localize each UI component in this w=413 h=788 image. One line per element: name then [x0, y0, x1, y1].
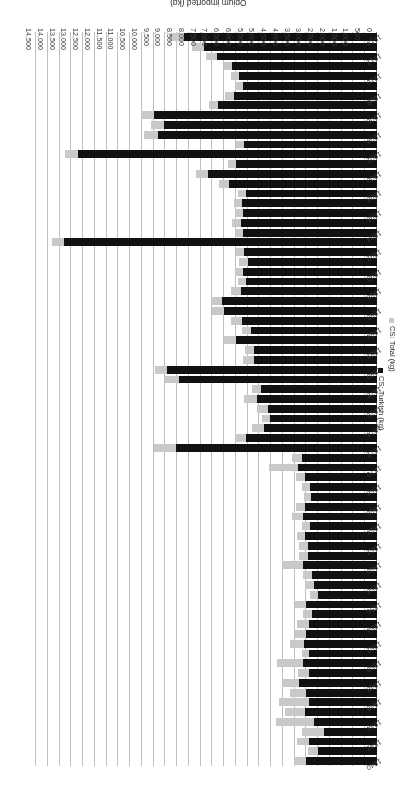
bar-row — [36, 532, 377, 540]
bar-turkish[interactable] — [261, 385, 377, 393]
bar-row — [36, 366, 377, 374]
bar-turkish[interactable] — [236, 160, 377, 168]
bar-turkish[interactable] — [208, 170, 377, 178]
bar-turkish[interactable] — [243, 209, 377, 217]
year-tick-label: 1856 — [379, 600, 384, 608]
bar-turkish[interactable] — [154, 111, 377, 119]
year-tick-label: 1900 — [379, 170, 384, 178]
bar-turkish[interactable] — [244, 141, 377, 149]
bar-turkish[interactable] — [241, 219, 377, 227]
value-tick-label: 1,500 — [330, 28, 339, 46]
bar-row — [36, 180, 377, 188]
value-tick-label: 8,000 — [177, 28, 186, 46]
bar-turkish[interactable] — [232, 62, 377, 70]
year-tick-label: 1846 — [379, 698, 384, 706]
year-tick-label: 1902 — [379, 150, 384, 158]
year-tick-label: 1898 — [379, 189, 384, 197]
year-tick-label: 1844 — [379, 718, 384, 726]
bar-turkish[interactable] — [78, 150, 377, 158]
bar-turkish[interactable] — [64, 239, 377, 247]
year-tick-label: 1864 — [379, 522, 384, 530]
bar-turkish[interactable] — [218, 102, 377, 110]
bar-row — [36, 287, 377, 295]
bar-row — [36, 278, 377, 286]
bar-turkish[interactable] — [242, 317, 377, 325]
bar-row — [36, 376, 377, 384]
year-tick-label: 1850 — [379, 659, 384, 667]
bar-turkish[interactable] — [224, 307, 377, 315]
year-tick-label: 1914 — [379, 33, 384, 41]
bar-turkish[interactable] — [243, 82, 377, 90]
value-tick-label: 11,500 — [95, 28, 104, 49]
bar-row — [36, 53, 377, 61]
bar-turkish[interactable] — [270, 415, 377, 423]
bar-turkish[interactable] — [241, 287, 377, 295]
value-tick-label: 14,000 — [36, 28, 45, 50]
bar-row — [36, 591, 377, 599]
value-tick-label: 3,000 — [294, 28, 303, 46]
bar-turkish[interactable] — [243, 268, 377, 276]
bar-turkish[interactable] — [244, 248, 377, 256]
legend-item-total[interactable]: CS: Total (kg) — [388, 318, 397, 372]
value-tick-label: 5,500 — [236, 28, 245, 46]
bar-row — [36, 385, 377, 393]
bar-turkish[interactable] — [248, 258, 377, 266]
bar-row — [36, 336, 377, 344]
bar-turkish[interactable] — [254, 356, 377, 364]
bar-turkish[interactable] — [264, 424, 377, 432]
value-tick-label: 4,500 — [259, 28, 268, 46]
bar-turkish[interactable] — [246, 278, 377, 286]
bar-row — [36, 640, 377, 648]
bar-turkish[interactable] — [239, 72, 377, 80]
bar-row — [36, 327, 377, 335]
bar-turkish[interactable] — [268, 405, 377, 413]
legend-item-turkish[interactable]: CS: Turkish (kg) — [377, 368, 386, 430]
year-tick-label: 1860 — [379, 561, 384, 569]
value-tick-label: 2,500 — [306, 28, 315, 46]
bar-turkish[interactable] — [179, 376, 377, 384]
bar-turkish[interactable] — [164, 121, 377, 129]
bar-row — [36, 92, 377, 100]
bar-turkish[interactable] — [167, 366, 377, 374]
bar-turkish[interactable] — [257, 395, 377, 403]
bar-row — [36, 170, 377, 178]
legend-swatch-total — [390, 318, 395, 323]
value-tick-label: 5,000 — [247, 28, 256, 46]
bar-row — [36, 493, 377, 501]
bar-row — [36, 434, 377, 442]
bar-turkish[interactable] — [158, 131, 377, 139]
bar-row — [36, 346, 377, 354]
bar-row — [36, 650, 377, 658]
bar-row — [36, 248, 377, 256]
bar-turkish[interactable] — [234, 92, 377, 100]
value-tick-label: 12,500 — [71, 28, 80, 50]
bar-turkish[interactable] — [243, 229, 377, 237]
bar-turkish[interactable] — [251, 327, 377, 335]
value-tick-label: 500 — [353, 28, 362, 40]
value-axis-title: Opium imported (kg) — [170, 0, 246, 8]
year-tick-label: 1896 — [379, 209, 384, 217]
bar-row — [36, 82, 377, 90]
bar-turkish[interactable] — [176, 444, 377, 452]
year-tick-label: 1848 — [379, 678, 384, 686]
bar-turkish[interactable] — [236, 336, 377, 344]
bar-turkish[interactable] — [242, 199, 377, 207]
bar-row — [36, 141, 377, 149]
bar-turkish[interactable] — [222, 297, 377, 305]
bar-turkish[interactable] — [229, 180, 377, 188]
bar-row — [36, 405, 377, 413]
bar-turkish[interactable] — [254, 346, 377, 354]
year-tick-label: 1892 — [379, 248, 384, 256]
bar-turkish[interactable] — [302, 454, 377, 462]
bar-row — [36, 464, 377, 472]
bar-turkish[interactable] — [246, 434, 377, 442]
value-tick-label: 12,000 — [83, 28, 92, 50]
value-tick-label: 9,500 — [142, 28, 151, 46]
bar-turkish[interactable] — [217, 53, 377, 61]
bar-turkish[interactable] — [246, 190, 377, 198]
bar-row — [36, 219, 377, 227]
legend-label: CS: Total (kg) — [388, 326, 397, 372]
bar-row — [36, 542, 377, 550]
bar-row — [36, 209, 377, 217]
year-tick-label: 1906 — [379, 111, 384, 119]
